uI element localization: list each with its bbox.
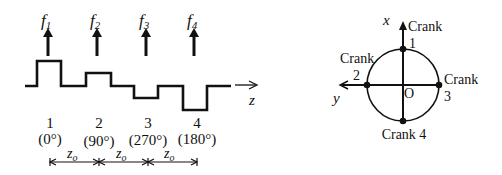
station-angle: (90°): [84, 133, 115, 150]
up-arrow-icon: [92, 28, 102, 56]
crank-phase-circle-panel: x y O Crank 1 Crank 2 Crank 3 Crank 4: [331, 12, 478, 142]
station-angle: (180°): [178, 131, 217, 148]
station-angle: (0°): [38, 131, 62, 148]
crank-4-label: Crank 4: [382, 127, 427, 142]
y-axis-label: y: [331, 90, 340, 106]
crank-2-number: 2: [353, 68, 360, 83]
crank-3-word: Crank: [444, 72, 478, 87]
up-arrow-icon: [189, 28, 199, 56]
crank-1-dot: [400, 46, 407, 53]
force-arrows: [43, 28, 199, 56]
station-number: 4: [193, 115, 201, 131]
crank-4-dot: [400, 118, 407, 125]
spacing-label-zo: zo: [66, 146, 77, 163]
station-labels: 1 (0°) 2 (90°) 3 (270°) 4 (180°): [38, 115, 216, 150]
crank-shaft-diagram: f1 f2 f3 f4: [0, 0, 502, 175]
up-arrow-icon: [43, 28, 53, 56]
x-axis-label: x: [382, 12, 390, 28]
shaft-step-profile: [25, 61, 231, 110]
x-axis-arrow: [399, 21, 407, 121]
force-label-f1: f1: [41, 11, 51, 31]
crank-labels: Crank 1 Crank 2 Crank 3 Crank 4: [340, 19, 478, 142]
shaft-profile-panel: f1 f2 f3 f4: [25, 11, 257, 166]
station-number: 3: [144, 115, 152, 131]
crank-2-dot: [364, 82, 371, 89]
crank-1-number: 1: [409, 36, 416, 51]
station-number: 1: [46, 115, 54, 131]
crank-3-number: 3: [444, 89, 451, 104]
force-label-f2: f2: [90, 11, 101, 31]
z-axis-label: z: [248, 92, 255, 108]
force-labels: f1 f2 f3 f4: [41, 11, 198, 31]
crank-3-dot: [436, 82, 443, 89]
force-label-f3: f3: [139, 11, 150, 31]
station-angle: (270°): [129, 132, 168, 149]
origin-label: O: [404, 86, 414, 101]
crank-2-word: Crank: [340, 51, 374, 66]
spacing-label-zo: zo: [115, 146, 126, 163]
crank-1-word: Crank: [408, 19, 442, 34]
z-axis-arrow: [235, 81, 257, 89]
station-number: 2: [95, 115, 103, 131]
spacing-label-zo: zo: [163, 146, 174, 163]
force-label-f4: f4: [187, 11, 198, 31]
up-arrow-icon: [141, 28, 151, 56]
spacing-labels: zo zo zo: [66, 146, 174, 163]
